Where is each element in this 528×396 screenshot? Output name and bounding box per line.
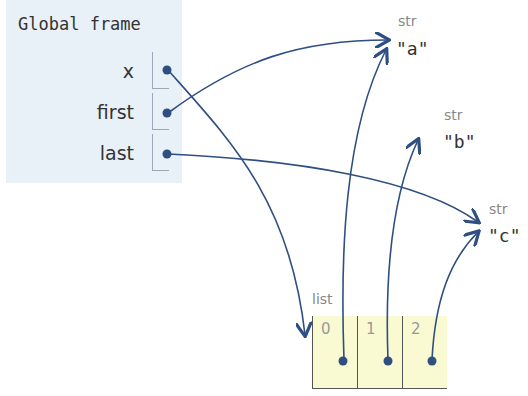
arrow-x-to-list [168, 70, 305, 335]
arrow-list1-to-b [387, 140, 418, 360]
arrow-list2-to-c [432, 232, 478, 360]
pointer-arrows [0, 0, 528, 396]
arrow-first-to-a [168, 40, 388, 113]
arrow-last-to-c [168, 154, 478, 222]
arrow-list0-to-a [343, 50, 386, 360]
